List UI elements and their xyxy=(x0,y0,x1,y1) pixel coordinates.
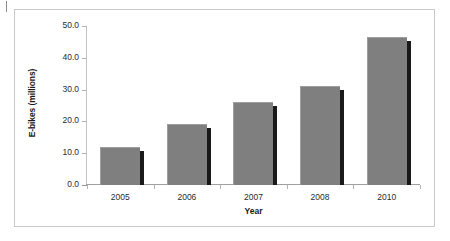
x-axis-title: Year xyxy=(87,206,420,216)
x-axis-ticks xyxy=(87,185,420,189)
plot-area: 50.040.030.020.010.00.0 xyxy=(87,26,420,185)
bar-2005 xyxy=(100,147,140,185)
x-tick-line xyxy=(353,185,354,189)
bar-shadow xyxy=(207,128,211,185)
y-tick-label: 0.0 xyxy=(67,179,79,189)
bar-shadow xyxy=(273,106,277,185)
bar-2006 xyxy=(167,124,207,185)
x-tick-line xyxy=(87,185,88,189)
chart-frame: E-bikes (millions) 50.040.030.020.010.00… xyxy=(14,9,435,227)
bar-slot xyxy=(353,26,420,185)
bar-2008 xyxy=(300,86,340,185)
y-tick-label: 30.0 xyxy=(62,84,79,94)
x-tick-label-2006: 2006 xyxy=(154,192,221,202)
bar-2007 xyxy=(233,102,273,185)
x-tick-label-2007: 2007 xyxy=(220,192,287,202)
scan-artifact-mark xyxy=(6,1,7,12)
y-tick-label: 50.0 xyxy=(62,20,79,30)
y-axis-title: E-bikes (millions) xyxy=(27,48,37,158)
bar-slot xyxy=(87,26,154,185)
bar-2010 xyxy=(367,37,407,185)
x-axis-tick-labels: 20052006200720082010 xyxy=(87,192,420,202)
y-tick-label: 40.0 xyxy=(62,52,79,62)
x-tick-line xyxy=(220,185,221,189)
chart-plot-wrapper: E-bikes (millions) 50.040.030.020.010.00… xyxy=(15,10,434,226)
x-tick-label-2010: 2010 xyxy=(353,192,420,202)
x-tick-label-2008: 2008 xyxy=(287,192,354,202)
bar-shadow xyxy=(407,41,411,185)
y-tick-label: 20.0 xyxy=(62,115,79,125)
bar-slot xyxy=(154,26,221,185)
bar-slot xyxy=(287,26,354,185)
bar-shadow xyxy=(340,90,344,185)
bar-series xyxy=(87,26,420,185)
bar-slot xyxy=(220,26,287,185)
x-tick-label-2005: 2005 xyxy=(87,192,154,202)
x-tick-line xyxy=(154,185,155,189)
x-tick-line xyxy=(420,185,421,189)
x-tick-line xyxy=(287,185,288,189)
y-tick-label: 10.0 xyxy=(62,147,79,157)
bar-shadow xyxy=(140,151,144,185)
